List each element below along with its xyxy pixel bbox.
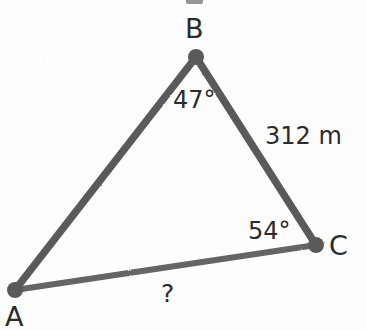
unknown-side-label-ac: ?	[161, 281, 174, 306]
side-length-label-bc: 312 m	[265, 124, 342, 148]
vertex-dot-c	[308, 237, 324, 253]
vertex-dot-b	[188, 49, 204, 65]
vertex-dot-a	[7, 282, 23, 298]
vertex-label-a: A	[5, 303, 23, 330]
vertex-label-c: C	[329, 232, 348, 259]
edge-ab	[15, 57, 196, 290]
angle-label-c: 54°	[248, 219, 291, 243]
angle-label-b: 47°	[173, 88, 216, 112]
figure-canvas: B A C 47° 54° 312 m ?	[0, 0, 367, 331]
vertex-label-b: B	[185, 15, 204, 42]
triangle-figure	[0, 0, 367, 331]
